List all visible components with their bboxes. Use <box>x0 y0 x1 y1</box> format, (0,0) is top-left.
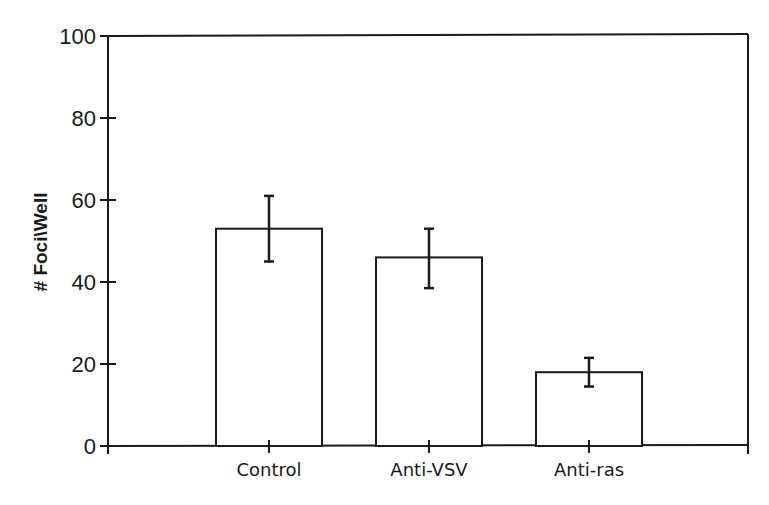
bar-control <box>216 196 322 446</box>
y-tick-label: 100 <box>59 24 96 49</box>
bar-chart: 020406080100 ControlAnti-VSVAnti-ras # F… <box>0 0 769 505</box>
y-tick-label: 80 <box>72 106 96 131</box>
x-tick-label: Anti-VSV <box>390 459 468 480</box>
y-tick-label: 0 <box>84 434 96 459</box>
bar-anti-vsv <box>376 229 482 446</box>
x-tick-label: Anti-ras <box>554 459 624 480</box>
y-tick-label: 60 <box>72 188 96 213</box>
bar-anti-ras <box>536 358 642 446</box>
x-tick-label: Control <box>236 459 301 480</box>
bars <box>216 196 642 446</box>
top-border <box>108 34 748 36</box>
y-axis-title: # Foci\Well <box>30 193 51 292</box>
y-tick-label: 40 <box>72 270 96 295</box>
y-tick-label: 20 <box>72 352 96 377</box>
